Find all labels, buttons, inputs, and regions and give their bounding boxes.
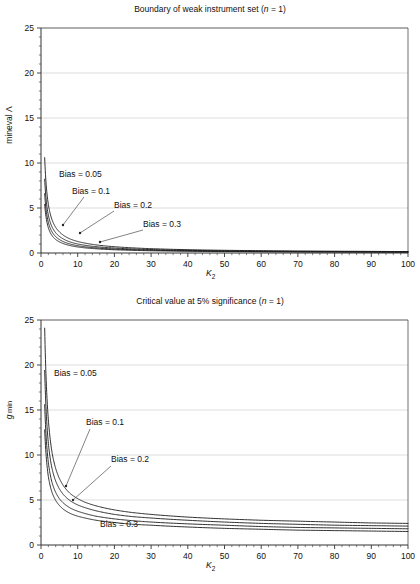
annotation-leader-line xyxy=(100,230,143,242)
annotation-leader-endpoint xyxy=(99,241,101,243)
plot-area-top: 05101520250102030405060708090100Bias = 0… xyxy=(0,0,420,292)
y-tick-label: 0 xyxy=(29,540,34,550)
x-tick-label: 70 xyxy=(293,551,303,561)
y-tick-label: 5 xyxy=(29,495,34,505)
x-tick-label: 70 xyxy=(293,259,303,269)
x-tick-label: 30 xyxy=(146,551,156,561)
y-tick-label: 15 xyxy=(25,405,35,415)
y-tick-label: 20 xyxy=(25,360,35,370)
x-tick-label: 20 xyxy=(110,551,120,561)
data-curve xyxy=(45,194,408,252)
plot-area-bottom: 05101520250102030405060708090100Bias = 0… xyxy=(0,292,420,584)
x-tick-label: 40 xyxy=(183,551,193,561)
x-tick-label: 20 xyxy=(110,259,120,269)
chart-panel-bottom: Critical value at 5% significance (n = 1… xyxy=(0,292,420,584)
chart-panel-top: Boundary of weak instrument set (n = 1) … xyxy=(0,0,420,292)
x-tick-label: 30 xyxy=(146,259,156,269)
series-annotation-label: Bias = 0.2 xyxy=(111,454,149,464)
data-curve xyxy=(45,430,408,532)
y-tick-label: 20 xyxy=(25,68,35,78)
y-tick-label: 15 xyxy=(25,113,35,123)
x-tick-label: 100 xyxy=(401,551,415,561)
series-annotation-label: Bias = 0.3 xyxy=(100,519,138,529)
y-tick-label: 10 xyxy=(25,158,35,168)
annotation-leader-line xyxy=(73,466,111,500)
series-annotation-label: Bias = 0.1 xyxy=(86,417,124,427)
annotation-leader-line xyxy=(80,211,114,233)
series-annotation-label: Bias = 0.05 xyxy=(54,368,97,378)
x-tick-label: 80 xyxy=(330,259,340,269)
annotation-leader-line xyxy=(63,197,84,225)
y-tick-label: 0 xyxy=(29,248,34,258)
annotation-leader-endpoint xyxy=(79,232,81,234)
x-tick-label: 10 xyxy=(73,551,83,561)
series-annotation-label: Bias = 0.1 xyxy=(72,186,110,196)
annotation-leader-endpoint xyxy=(65,485,67,487)
series-annotation-label: Bias = 0.2 xyxy=(114,200,152,210)
x-tick-label: 60 xyxy=(256,551,266,561)
x-tick-label: 0 xyxy=(39,259,44,269)
x-tick-label: 100 xyxy=(401,259,415,269)
x-tick-label: 90 xyxy=(367,259,377,269)
x-tick-label: 60 xyxy=(256,259,266,269)
series-annotation-label: Bias = 0.3 xyxy=(143,219,181,229)
y-tick-label: 10 xyxy=(25,450,35,460)
figure-container: Boundary of weak instrument set (n = 1) … xyxy=(0,0,420,584)
y-tick-label: 5 xyxy=(29,203,34,213)
x-tick-label: 10 xyxy=(73,259,83,269)
annotation-leader-endpoint xyxy=(72,499,74,501)
x-tick-label: 90 xyxy=(367,551,377,561)
annotation-leader-endpoint xyxy=(62,224,64,226)
y-tick-label: 25 xyxy=(25,315,35,325)
y-tick-label: 25 xyxy=(25,23,35,33)
series-annotation-label: Bias = 0.05 xyxy=(59,169,102,179)
x-tick-label: 0 xyxy=(39,551,44,561)
x-tick-label: 50 xyxy=(220,259,230,269)
x-tick-label: 80 xyxy=(330,551,340,561)
annotation-leader-line xyxy=(66,429,90,486)
x-tick-label: 50 xyxy=(220,551,230,561)
data-curve xyxy=(45,370,408,526)
x-tick-label: 40 xyxy=(183,259,193,269)
